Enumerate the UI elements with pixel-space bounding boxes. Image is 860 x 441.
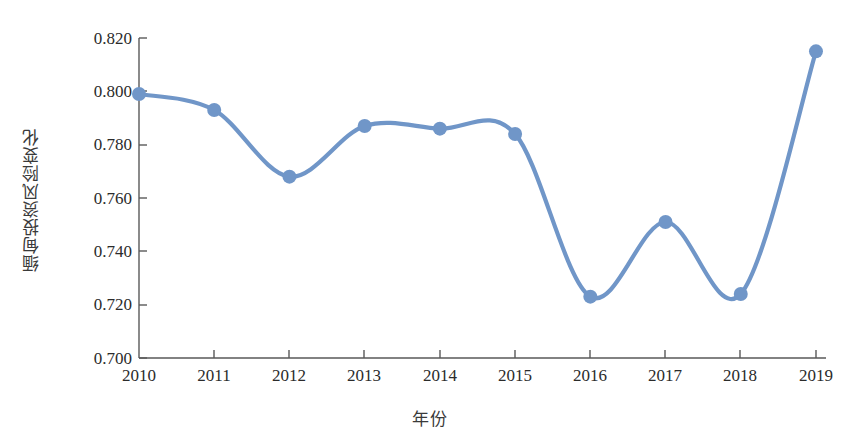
data-point-marker — [659, 215, 673, 229]
y-axis-ticks — [139, 38, 147, 358]
x-tick-label: 2011 — [174, 366, 254, 386]
data-point-marker — [132, 87, 146, 101]
data-point-marker — [734, 287, 748, 301]
line-chart: 缅甸投资风险变化 0.820 0.800 0.780 0.760 0.740 0… — [0, 0, 860, 441]
data-point-marker — [508, 127, 522, 141]
x-tick-label: 2015 — [475, 366, 555, 386]
x-tick-label: 2010 — [99, 366, 179, 386]
x-axis-ticks — [214, 350, 816, 358]
data-point-marker — [583, 290, 597, 304]
data-line-series-1 — [139, 51, 816, 299]
data-point-marker — [433, 122, 447, 136]
axes — [139, 38, 826, 358]
data-point-marker — [207, 103, 221, 117]
x-tick-label: 2017 — [625, 366, 705, 386]
x-tick-label: 2014 — [400, 366, 480, 386]
x-axis-title: 年份 — [0, 405, 860, 430]
data-point-marker — [809, 44, 823, 58]
x-tick-label: 2012 — [249, 366, 329, 386]
x-tick-label: 2019 — [776, 366, 856, 386]
x-tick-label: 2016 — [550, 366, 630, 386]
data-point-markers — [132, 44, 823, 303]
x-tick-label: 2018 — [700, 366, 780, 386]
x-tick-label: 2013 — [324, 366, 404, 386]
data-point-marker — [282, 170, 296, 184]
data-point-marker — [358, 119, 372, 133]
